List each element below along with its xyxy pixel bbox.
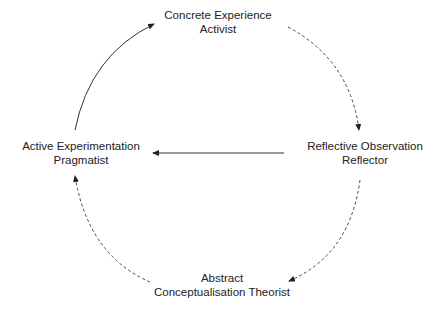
node-abstract-conceptualisation: Abstract Conceptualisation Theorist [154,271,290,299]
node-left-title: Active Experimentation [22,139,140,153]
edge-left-to-top [75,24,154,130]
edge-right-to-bottom [289,180,360,281]
edge-top-to-right [288,27,359,130]
node-concrete-experience: Concrete Experience Activist [164,8,271,36]
node-bottom-title: Abstract [154,271,290,285]
node-left-style: Pragmatist [22,153,140,167]
node-right-style: Reflector [307,153,423,167]
node-top-style: Activist [164,22,271,36]
node-right-title: Reflective Observation [307,139,423,153]
learning-cycle-diagram: Concrete Experience Activist Reflective … [0,0,425,313]
node-active-experimentation: Active Experimentation Pragmatist [22,139,140,167]
node-top-title: Concrete Experience [164,8,271,22]
node-reflective-observation: Reflective Observation Reflector [307,139,423,167]
edge-bottom-to-left [75,176,150,282]
node-bottom-style: Conceptualisation Theorist [154,285,290,299]
